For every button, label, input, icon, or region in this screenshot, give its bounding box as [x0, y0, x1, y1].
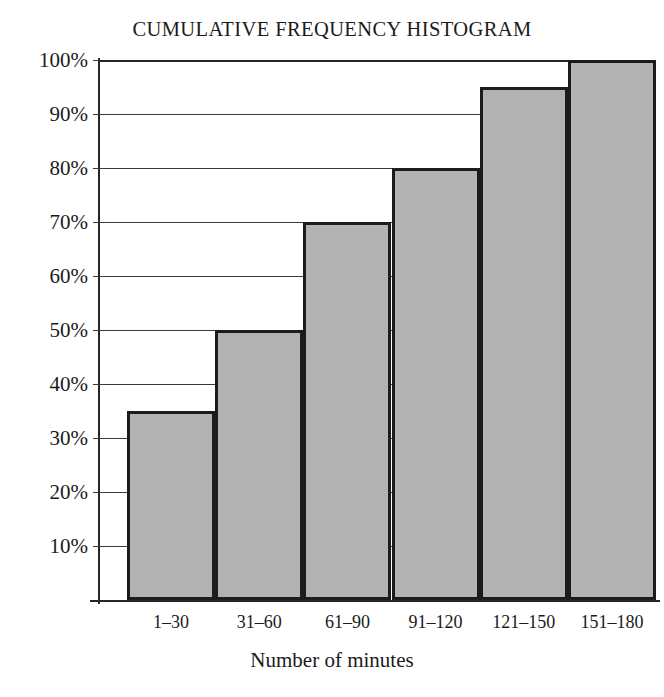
y-axis-tick-label: 100% [39, 48, 88, 73]
x-axis-tick-label: 1–30 [127, 612, 215, 633]
chart-title: CUMULATIVE FREQUENCY HISTOGRAM [0, 18, 664, 41]
bar [215, 330, 303, 600]
x-axis-line [90, 600, 660, 602]
y-tick-30 [93, 438, 100, 439]
x-axis-tick-label: 31–60 [215, 612, 303, 633]
y-axis-tick-label: 30% [50, 426, 89, 451]
bar [303, 222, 391, 600]
x-axis-tick-label: 121–150 [480, 612, 568, 633]
y-tick-10 [93, 546, 100, 547]
x-axis-title: Number of minutes [0, 648, 664, 673]
x-axis-tick-label: 91–120 [392, 612, 480, 633]
y-tick-80 [93, 168, 100, 169]
y-axis-tick-label: 60% [50, 264, 89, 289]
y-tick-100 [93, 60, 100, 61]
x-axis-labels: 1–3031–6061–9091–120121–150151–180 [100, 612, 656, 642]
y-axis-line [98, 58, 100, 604]
x-axis-tick-label: 151–180 [568, 612, 656, 633]
plot-area: 10%20%30%40%50%60%70%80%90%100% [100, 60, 656, 600]
y-axis-tick-label: 50% [50, 318, 89, 343]
y-tick-40 [93, 384, 100, 385]
y-axis-tick-label: 90% [50, 102, 89, 127]
bar [480, 87, 568, 600]
y-tick-60 [93, 276, 100, 277]
y-tick-50 [93, 330, 100, 331]
y-tick-20 [93, 492, 100, 493]
y-tick-70 [93, 222, 100, 223]
y-axis-tick-label: 10% [50, 534, 89, 559]
y-axis-tick-label: 20% [50, 480, 89, 505]
chart-page: CUMULATIVE FREQUENCY HISTOGRAM 10%20%30%… [0, 0, 664, 697]
bar [568, 60, 656, 600]
y-axis-tick-label: 80% [50, 156, 89, 181]
x-axis-tick-label: 61–90 [303, 612, 391, 633]
bar [127, 411, 215, 600]
y-axis-tick-label: 40% [50, 372, 89, 397]
y-tick-90 [93, 114, 100, 115]
y-axis-tick-label: 70% [50, 210, 89, 235]
bar [392, 168, 480, 600]
